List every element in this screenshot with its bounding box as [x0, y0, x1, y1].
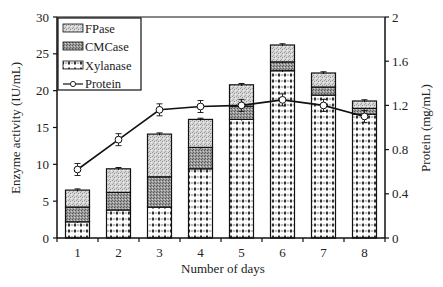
y2-tick-label: 0.4 — [392, 186, 409, 201]
bar-stack — [107, 168, 131, 238]
bar-segment-cmcase — [148, 177, 172, 207]
bar-segment-cmcase — [189, 147, 213, 168]
x-tick-label: 4 — [197, 245, 204, 260]
legend-label: CMCase — [85, 40, 129, 54]
fpase-swatch-icon — [63, 24, 83, 32]
bar-segment-cmcase — [66, 207, 90, 222]
xylanase-swatch-icon — [63, 61, 83, 69]
y2-tick-label: 0.8 — [392, 142, 408, 157]
bar-segment-fpase — [148, 134, 172, 177]
y-tick-label: 20 — [36, 83, 49, 98]
x-axis-title: Number of days — [181, 261, 265, 276]
x-tick-label: 1 — [74, 245, 81, 260]
bar-stack — [271, 44, 295, 238]
y2-tick-label: 2 — [392, 10, 399, 25]
y2-tick-label: 1.6 — [392, 54, 409, 69]
bar-stack — [148, 133, 172, 238]
bar-segment-xylanase — [353, 114, 377, 238]
x-tick-label: 8 — [361, 245, 368, 260]
bar-segment-fpase — [312, 73, 336, 87]
bar-stack — [312, 72, 336, 238]
protein-marker — [156, 106, 163, 113]
cmcase-swatch-icon — [63, 42, 83, 50]
bar-segment-cmcase — [312, 87, 336, 95]
x-tick-label: 6 — [279, 245, 286, 260]
bar-segment-xylanase — [107, 210, 131, 238]
bar-segment-xylanase — [230, 119, 254, 238]
protein-marker — [361, 113, 368, 120]
y2-axis-title: Protein (mg/mL) — [418, 84, 433, 172]
bar-stack — [189, 118, 213, 238]
legend-label: Protein — [85, 77, 122, 91]
bar-segment-xylanase — [312, 95, 336, 238]
bar-segment-fpase — [271, 45, 295, 62]
protein-marker — [74, 166, 81, 173]
x-tick-label: 3 — [156, 245, 163, 260]
x-tick-label: 2 — [115, 245, 122, 260]
x-tick-label: 5 — [238, 245, 245, 260]
bar-segment-xylanase — [66, 222, 90, 238]
y2-tick-label: 1.2 — [392, 98, 408, 113]
y-tick-label: 25 — [36, 46, 49, 61]
protein-marker-icon — [70, 81, 75, 86]
legend: FPase CMCase Xylanase Protein — [58, 18, 141, 91]
protein-marker — [197, 103, 204, 110]
bar-segment-fpase — [66, 190, 90, 207]
bar-segment-xylanase — [189, 169, 213, 238]
chart: 05101520253000.40.81.21.6212345678 Numbe… — [0, 0, 443, 287]
bar-segment-xylanase — [148, 207, 172, 238]
protein-marker — [238, 102, 245, 109]
legend-label: Xylanase — [85, 59, 132, 73]
bar-segment-fpase — [189, 119, 213, 147]
x-tick-label: 7 — [320, 245, 327, 260]
y-tick-label: 5 — [43, 194, 50, 209]
protein-marker — [279, 96, 286, 103]
chart-canvas: 05101520253000.40.81.21.6212345678 Numbe… — [0, 0, 443, 287]
y-tick-label: 15 — [36, 120, 49, 135]
y-tick-label: 0 — [43, 231, 50, 246]
bar-segment-fpase — [107, 169, 131, 193]
legend-label: FPase — [85, 22, 115, 36]
y-tick-label: 30 — [36, 10, 49, 25]
bar-stack — [66, 189, 90, 238]
bar-segment-cmcase — [107, 192, 131, 210]
protein-marker — [115, 136, 122, 143]
y-tick-label: 10 — [36, 157, 49, 172]
bar-segment-cmcase — [271, 62, 295, 71]
y-axis-title: Enzyme activity (IU/mL) — [8, 62, 23, 194]
y2-tick-label: 0 — [392, 231, 399, 246]
protein-marker — [320, 102, 327, 109]
